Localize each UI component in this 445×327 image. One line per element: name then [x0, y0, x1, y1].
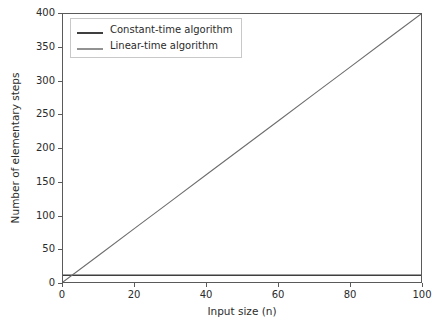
x-tick-mark: [134, 283, 135, 287]
y-tick-mark: [58, 283, 62, 284]
y-tick-label: 0: [49, 278, 55, 288]
x-tick-label: 60: [272, 290, 285, 300]
y-tick-label: 300: [36, 76, 55, 86]
x-tick-mark: [422, 283, 423, 287]
y-axis-label: Number of elementary steps: [8, 13, 22, 283]
legend-entry-label: Constant-time algorithm: [110, 25, 233, 35]
y-axis-label-text: Number of elementary steps: [9, 73, 21, 224]
y-tick-mark: [58, 182, 62, 183]
y-tick-mark: [58, 47, 62, 48]
x-tick-label: 20: [128, 290, 141, 300]
y-tick-label: 350: [36, 42, 55, 52]
y-tick-label: 200: [36, 143, 55, 153]
chart-legend: Constant-time algorithmLinear-time algor…: [70, 18, 242, 58]
chart-figure: Number of elementary steps 0501001502002…: [0, 0, 445, 327]
y-tick-mark: [58, 249, 62, 250]
y-tick-mark: [58, 114, 62, 115]
y-tick-label: 250: [36, 109, 55, 119]
y-tick-mark: [58, 216, 62, 217]
x-tick-mark: [350, 283, 351, 287]
x-tick-label: 40: [200, 290, 213, 300]
x-tick-mark: [62, 283, 63, 287]
legend-line-icon: [77, 37, 103, 56]
x-tick-mark: [278, 283, 279, 287]
y-tick-mark: [58, 148, 62, 149]
y-tick-mark: [58, 81, 62, 82]
x-tick-label: 80: [344, 290, 357, 300]
y-tick-label: 100: [36, 211, 55, 221]
x-tick-label: 100: [412, 290, 431, 300]
legend-entry-label: Linear-time algorithm: [110, 41, 218, 51]
x-tick-label: 0: [59, 290, 65, 300]
x-axis-label: Input size (n): [62, 305, 422, 317]
legend-entry: Constant-time algorithm: [77, 24, 233, 36]
y-tick-label: 400: [36, 8, 55, 18]
y-tick-mark: [58, 13, 62, 14]
y-tick-label: 50: [42, 244, 55, 254]
x-axis-label-text: Input size (n): [207, 305, 276, 317]
x-tick-mark: [206, 283, 207, 287]
legend-entry: Linear-time algorithm: [77, 40, 233, 52]
y-tick-label: 150: [36, 177, 55, 187]
